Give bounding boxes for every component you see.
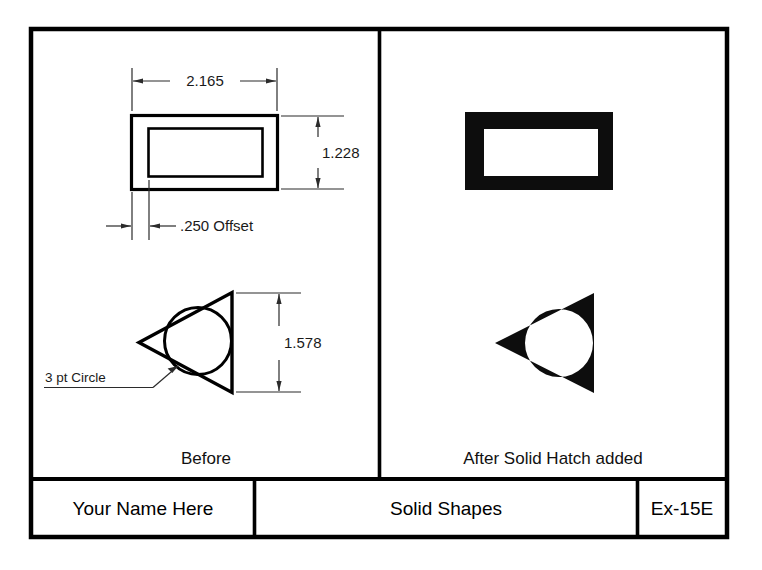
title-block-name-text: Your Name Here [73, 498, 214, 519]
leader-3pt-circle-text: 3 pt Circle [45, 370, 106, 385]
drawing-sheet: 2.165 1.228 .250 Offset [0, 0, 762, 570]
outlined-rectangle-shape [132, 116, 278, 190]
dimension-1228-text: 1.228 [322, 144, 360, 161]
solid-rectangle-shape [465, 112, 613, 190]
three-point-circle [165, 308, 232, 375]
outlined-triangle-shape [139, 293, 232, 393]
dimension-offset-text: .250 Offset [180, 217, 254, 234]
dimension-1578: 1.578 [236, 293, 322, 392]
title-block-number-text: Ex-15E [651, 498, 713, 519]
panel-label-after: After Solid Hatch added [463, 449, 643, 468]
title-block-name-cell[interactable]: Your Name Here [33, 481, 253, 535]
dimension-1228: 1.228 [281, 116, 360, 189]
dimension-2165-text: 2.165 [186, 72, 224, 89]
solid-triangle-shape [495, 293, 594, 393]
leader-3pt-circle: 3 pt Circle [44, 366, 178, 388]
panel-label-before: Before [181, 449, 231, 468]
title-block-title-text: Solid Shapes [390, 498, 502, 519]
dimension-1578-text: 1.578 [284, 334, 322, 351]
title-block-title-cell[interactable]: Solid Shapes [256, 481, 636, 535]
title-block-number-cell[interactable]: Ex-15E [639, 481, 725, 535]
dimension-2165: 2.165 [132, 68, 277, 111]
